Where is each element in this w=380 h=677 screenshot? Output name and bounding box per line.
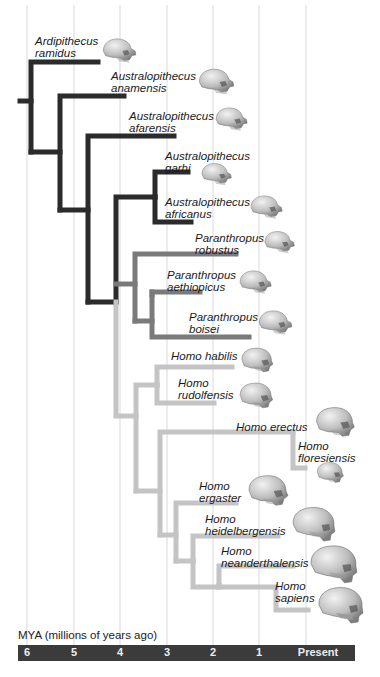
- skull-icon-boisei: [256, 307, 296, 342]
- branch-anamensis: [60, 96, 124, 210]
- genus-name: Homo: [236, 421, 267, 433]
- taxon-label-aethiopicus: Paranthropusaethiopicus: [167, 269, 236, 293]
- tick-label: Present: [298, 646, 338, 658]
- genus-name: Paranthropus: [167, 269, 236, 281]
- taxon-label-ramidus: Ardipithecusramidus: [35, 35, 98, 59]
- hominin-phylogeny-diagram: ArdipithecusramidusAustralopithecusaname…: [0, 0, 380, 677]
- genus-name: Paranthropus: [189, 311, 258, 323]
- australopithecine-branches: [20, 62, 191, 302]
- branch-afarensis: [88, 136, 174, 302]
- species-name: neanderthalensis: [221, 557, 309, 569]
- species-name: ergaster: [199, 492, 241, 504]
- tick-label: 2: [210, 646, 216, 658]
- tick-label: 3: [164, 646, 170, 658]
- genus-name: Australopithecus: [111, 70, 196, 82]
- taxon-label-afarensis: Australopithecusafarensis: [129, 110, 214, 134]
- skull-icon-habilis: [238, 345, 276, 379]
- skull-icon-anamensis: [196, 65, 238, 102]
- skull-icon-sapiens: [316, 585, 366, 628]
- genus-name: Homo: [205, 513, 286, 525]
- genus-name: Paranthropus: [195, 232, 264, 244]
- species-name: boisei: [189, 323, 258, 335]
- skull-icon-robustus: [262, 228, 298, 260]
- tick-label: 5: [71, 646, 77, 658]
- taxon-label-heidelbergensis: Homoheidelbergensis: [205, 513, 286, 537]
- species-name: rudolfensis: [178, 389, 234, 401]
- tick-label: 4: [117, 646, 123, 658]
- skull-icon-erectus: [312, 404, 358, 444]
- genus-name: Australopithecus: [165, 196, 250, 208]
- genus-name: Australopithecus: [129, 110, 214, 122]
- species-name: sapiens: [275, 592, 315, 604]
- species-name: aethiopicus: [167, 281, 236, 293]
- species-name: afarensis: [129, 122, 214, 134]
- species-name: robustus: [195, 244, 264, 256]
- taxon-label-robustus: Paranthropusrobustus: [195, 232, 264, 256]
- species-name: africanus: [165, 208, 250, 220]
- taxon-label-anamensis: Australopithecusanamensis: [111, 70, 196, 94]
- genus-name: Ardipithecus: [35, 35, 98, 47]
- species-name: erectus: [270, 421, 308, 433]
- genus-name: Homo: [178, 377, 234, 389]
- taxon-label-ergaster: Homoergaster: [199, 480, 241, 504]
- branch-garhi: [155, 172, 188, 197]
- branch-habilis-rudolfensis: [136, 385, 157, 491]
- taxon-label-boisei: Paranthropusboisei: [189, 311, 258, 335]
- species-name: anamensis: [111, 82, 196, 94]
- skull-icon-neanderthalensis: [308, 543, 360, 588]
- species-name: ramidus: [35, 47, 98, 59]
- skull-icon-ergaster: [244, 472, 292, 513]
- skull-icon-africanus: [248, 192, 286, 226]
- taxon-label-rudolfensis: Homorudolfensis: [178, 377, 234, 401]
- skull-icon-rudolfensis: [236, 380, 276, 415]
- skull-icon-garhi: [199, 160, 235, 192]
- taxon-label-neanderthalensis: Homoneanderthalensis: [221, 545, 309, 569]
- taxon-label-africanus: Australopithecusafricanus: [165, 196, 250, 220]
- species-name: heidelbergensis: [205, 525, 286, 537]
- taxon-label-habilis: Homo habilis: [171, 350, 238, 362]
- node-neanderthalensis: [193, 561, 219, 587]
- skull-icon-heidelbergensis: [290, 505, 338, 546]
- axis-caption: MYA (millions of years ago): [18, 629, 157, 641]
- tick-label: 6: [24, 646, 30, 658]
- genus-name: Homo: [199, 480, 241, 492]
- skull-icon-floresiensis: [314, 460, 346, 489]
- species-name: habilis: [205, 350, 238, 362]
- skull-icon-ramidus: [100, 35, 140, 70]
- tick-label: 1: [256, 646, 262, 658]
- genus-name: Homo: [171, 350, 202, 362]
- skull-icon-aethiopicus: [237, 267, 275, 301]
- skull-icon-afarensis: [213, 104, 251, 138]
- taxon-label-erectus: Homo erectus: [236, 421, 308, 433]
- genus-name: Homo: [221, 545, 309, 557]
